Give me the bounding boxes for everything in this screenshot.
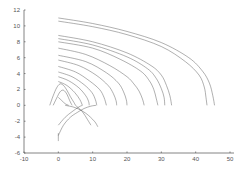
x-tick-label: 10 (89, 156, 96, 162)
trajectory-line (58, 35, 171, 105)
trajectory-line (58, 105, 96, 135)
trajectory-line (50, 84, 76, 106)
y-tick-label: -2 (15, 118, 21, 124)
x-tick-label: 20 (124, 156, 131, 162)
x-tick-label: 30 (158, 156, 165, 162)
trajectory-curves (50, 18, 215, 141)
y-tick-label: 12 (13, 7, 20, 13)
trajectory-line (58, 66, 106, 105)
y-tick-label: 10 (13, 23, 20, 29)
y-tick-label: 0 (17, 102, 21, 108)
trajectory-line (58, 39, 164, 106)
y-tick-label: -6 (15, 150, 21, 156)
x-tick-label: 40 (192, 156, 199, 162)
x-tick-label: 0 (57, 156, 61, 162)
trajectory-line (53, 90, 72, 105)
x-tick-label: -10 (20, 156, 29, 162)
trajectory-line (58, 77, 89, 106)
trajectory-line (58, 21, 207, 105)
y-tick-label: 2 (17, 86, 21, 92)
trajectory-line (58, 48, 144, 105)
y-tick-label: 8 (17, 39, 21, 45)
y-tick-label: 4 (17, 71, 21, 77)
trajectory-line (65, 105, 98, 126)
trajectory-line (58, 72, 96, 105)
trajectory-line (58, 97, 68, 105)
y-tick-label: 6 (17, 55, 21, 61)
y-tick-label: -4 (15, 134, 21, 140)
trajectory-chart: -1001020304050 -6-4-2024681012 (0, 0, 249, 175)
x-tick-label: 50 (227, 156, 234, 162)
